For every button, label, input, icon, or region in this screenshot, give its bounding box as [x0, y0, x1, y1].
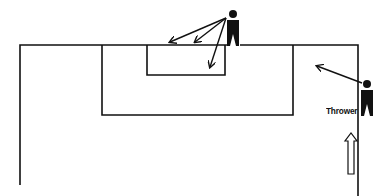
- diagram-canvas: [0, 0, 384, 196]
- receiver-player-icon: [227, 10, 239, 46]
- arrow-option-3-icon: [210, 18, 226, 67]
- throw-direction-arrow-icon: [317, 66, 362, 83]
- thrower-movement-arrow-icon: [345, 133, 357, 174]
- thrower-label: Thrower: [326, 106, 357, 116]
- arrow-option-1-icon: [170, 18, 226, 42]
- thrower-player-icon: [361, 80, 373, 116]
- receiver-arrows: [170, 18, 226, 67]
- penalty-area: [102, 45, 293, 115]
- field-boundary: [20, 45, 358, 196]
- goal-line-right-and-touchline: [240, 45, 358, 196]
- goal-area: [147, 45, 225, 75]
